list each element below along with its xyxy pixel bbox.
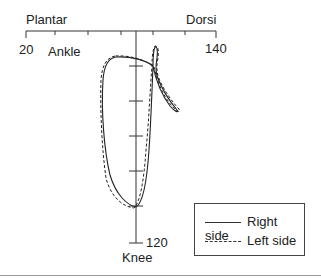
legend-item-right-side: Right side	[205, 215, 304, 229]
x-axis-min-label: 20	[19, 43, 33, 57]
x-axis-label-dorsi: Dorsi	[186, 13, 216, 27]
y-axis	[129, 31, 143, 243]
x-axis-max-label: 140	[205, 42, 227, 56]
y-axis-title-knee: Knee	[122, 251, 152, 265]
chart-legend: Right side Left side	[194, 203, 305, 256]
series-right-side	[102, 47, 177, 207]
divider	[0, 275, 321, 276]
legend-item-left-side: Left side	[205, 234, 296, 248]
y-axis-tick-label: 120	[146, 236, 168, 250]
x-axis	[26, 31, 216, 38]
dashed-line-swatch	[205, 241, 241, 242]
x-axis-title-ankle: Ankle	[48, 45, 81, 59]
solid-line-swatch	[205, 222, 241, 223]
legend-label: Left side	[247, 233, 296, 248]
x-axis-label-plantar: Plantar	[26, 13, 67, 27]
